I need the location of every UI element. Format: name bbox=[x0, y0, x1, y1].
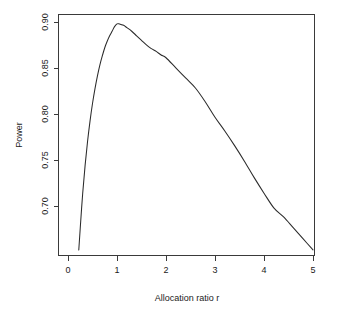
y-tick-label: 0.70 bbox=[40, 197, 50, 215]
y-tick-label: 0.80 bbox=[40, 105, 50, 123]
x-tick-label: 1 bbox=[114, 265, 119, 275]
power-vs-allocation-ratio-plot: 0.70 0.75 0.80 0.85 0.90 0 1 2 3 4 5 Pow… bbox=[0, 0, 341, 314]
plot-panel-background bbox=[58, 14, 315, 256]
y-tick-label: 0.90 bbox=[40, 13, 50, 31]
y-tick-label: 0.75 bbox=[40, 151, 50, 169]
y-axis-tick-labels: 0.70 0.75 0.80 0.85 0.90 bbox=[40, 13, 50, 215]
chart-figure: 0.70 0.75 0.80 0.85 0.90 0 1 2 3 4 5 Pow… bbox=[0, 0, 341, 314]
y-axis-tick-marks bbox=[54, 23, 59, 207]
x-tick-label: 0 bbox=[65, 265, 70, 275]
y-tick-label: 0.85 bbox=[40, 59, 50, 77]
x-tick-label: 4 bbox=[261, 265, 266, 275]
y-axis-title: Power bbox=[14, 122, 24, 148]
x-tick-label: 5 bbox=[310, 265, 315, 275]
x-axis-title: Allocation ratio r bbox=[155, 293, 220, 303]
x-tick-label: 2 bbox=[163, 265, 168, 275]
x-axis-tick-marks bbox=[69, 256, 314, 261]
x-tick-label: 3 bbox=[212, 265, 217, 275]
x-axis-tick-labels: 0 1 2 3 4 5 bbox=[65, 265, 315, 275]
